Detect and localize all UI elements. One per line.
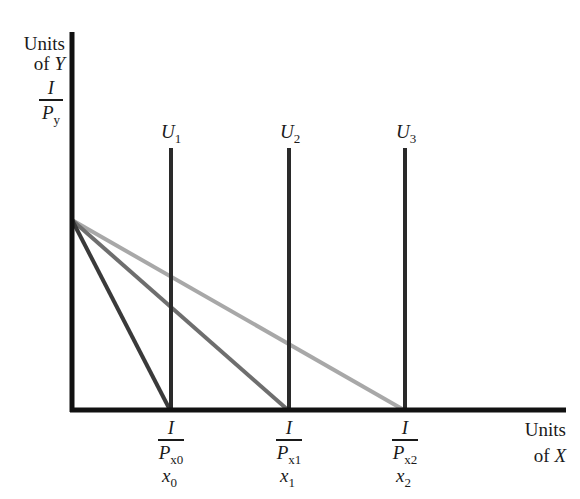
x-tick-px1: I Px1 bbox=[268, 418, 310, 470]
x-tick-px2: I Px2 bbox=[384, 418, 426, 470]
quantity-x0-label: x0 bbox=[162, 466, 177, 493]
x-axis-label-line2: of X bbox=[510, 446, 566, 466]
y-axis-label: Units of Y bbox=[17, 34, 65, 74]
x-tick-px0: I Px0 bbox=[150, 418, 192, 470]
y-axis-label-line2: of Y bbox=[17, 54, 65, 74]
u1-label: U1 bbox=[161, 122, 181, 149]
u3-label: U3 bbox=[396, 122, 416, 149]
x-axis-label: Units of X bbox=[510, 420, 566, 466]
y-axis-label-line1: Units bbox=[17, 34, 65, 54]
budget-line-medium bbox=[72, 220, 288, 410]
u2-label: U2 bbox=[280, 122, 300, 149]
x-axis-label-line1: Units bbox=[510, 420, 566, 440]
y-intercept-label: I Py bbox=[38, 78, 64, 130]
quantity-x2-label: x2 bbox=[396, 466, 411, 493]
quantity-x1-label: x1 bbox=[280, 466, 295, 493]
